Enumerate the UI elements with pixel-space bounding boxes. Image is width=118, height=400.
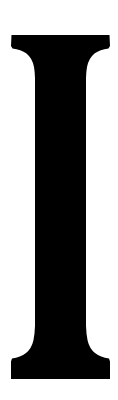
letter-i-glyph-icon	[0, 0, 118, 400]
image-canvas: I	[0, 0, 118, 400]
glyph-layer	[0, 0, 118, 400]
